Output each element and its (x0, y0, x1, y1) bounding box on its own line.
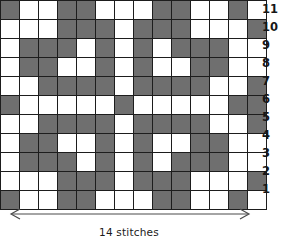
stitch-cell[interactable] (1, 77, 20, 96)
stitch-cell[interactable] (39, 77, 58, 96)
stitch-cell[interactable] (115, 115, 134, 134)
stitch-cell[interactable] (153, 58, 172, 77)
stitch-cell[interactable] (172, 1, 191, 20)
stitch-cell[interactable] (191, 58, 210, 77)
stitch-cell[interactable] (58, 58, 77, 77)
stitch-cell[interactable] (172, 96, 191, 115)
stitch-cell[interactable] (115, 77, 134, 96)
stitch-cell[interactable] (39, 1, 58, 20)
stitch-cell[interactable] (96, 134, 115, 153)
stitch-cell[interactable] (96, 96, 115, 115)
stitch-cell[interactable] (20, 172, 39, 191)
stitch-cell[interactable] (96, 1, 115, 20)
stitch-cell[interactable] (172, 153, 191, 172)
stitch-cell[interactable] (191, 39, 210, 58)
stitch-cell[interactable] (77, 172, 96, 191)
stitch-cell[interactable] (210, 58, 229, 77)
stitch-cell[interactable] (1, 172, 20, 191)
stitch-cell[interactable] (39, 96, 58, 115)
stitch-cell[interactable] (172, 77, 191, 96)
stitch-cell[interactable] (1, 134, 20, 153)
stitch-cell[interactable] (77, 77, 96, 96)
stitch-cell[interactable] (115, 39, 134, 58)
stitch-cell[interactable] (58, 115, 77, 134)
stitch-cell[interactable] (153, 20, 172, 39)
stitch-cell[interactable] (20, 153, 39, 172)
stitch-cell[interactable] (172, 20, 191, 39)
stitch-cell[interactable] (115, 172, 134, 191)
stitch-cell[interactable] (229, 20, 248, 39)
stitch-cell[interactable] (20, 20, 39, 39)
stitch-cell[interactable] (77, 1, 96, 20)
stitch-cell[interactable] (39, 20, 58, 39)
stitch-cell[interactable] (153, 96, 172, 115)
stitch-cell[interactable] (39, 115, 58, 134)
stitch-cell[interactable] (172, 58, 191, 77)
stitch-cell[interactable] (77, 20, 96, 39)
stitch-cell[interactable] (20, 77, 39, 96)
stitch-cell[interactable] (115, 153, 134, 172)
stitch-cell[interactable] (210, 115, 229, 134)
stitch-cell[interactable] (1, 58, 20, 77)
stitch-cell[interactable] (172, 134, 191, 153)
stitch-cell[interactable] (96, 77, 115, 96)
stitch-cell[interactable] (229, 172, 248, 191)
stitch-cell[interactable] (191, 1, 210, 20)
stitch-cell[interactable] (210, 1, 229, 20)
stitch-cell[interactable] (134, 134, 153, 153)
stitch-cell[interactable] (58, 96, 77, 115)
stitch-cell[interactable] (20, 58, 39, 77)
stitch-cell[interactable] (77, 134, 96, 153)
stitch-cell[interactable] (1, 153, 20, 172)
stitch-cell[interactable] (229, 96, 248, 115)
stitch-cell[interactable] (20, 96, 39, 115)
stitch-cell[interactable] (58, 172, 77, 191)
stitch-cell[interactable] (115, 58, 134, 77)
stitch-cell[interactable] (77, 58, 96, 77)
stitch-cell[interactable] (134, 172, 153, 191)
stitch-cell[interactable] (229, 39, 248, 58)
stitch-cell[interactable] (153, 153, 172, 172)
stitch-cell[interactable] (96, 153, 115, 172)
stitch-cell[interactable] (20, 115, 39, 134)
stitch-cell[interactable] (134, 96, 153, 115)
stitch-cell[interactable] (134, 77, 153, 96)
stitch-cell[interactable] (210, 134, 229, 153)
stitch-cell[interactable] (58, 77, 77, 96)
stitch-cell[interactable] (39, 172, 58, 191)
stitch-cell[interactable] (153, 77, 172, 96)
stitch-cell[interactable] (96, 115, 115, 134)
stitch-cell[interactable] (39, 58, 58, 77)
stitch-cell[interactable] (210, 20, 229, 39)
stitch-cell[interactable] (191, 115, 210, 134)
stitch-cell[interactable] (20, 134, 39, 153)
stitch-cell[interactable] (1, 115, 20, 134)
stitch-cell[interactable] (58, 20, 77, 39)
stitch-cell[interactable] (153, 39, 172, 58)
stitch-cell[interactable] (1, 39, 20, 58)
stitch-cell[interactable] (134, 58, 153, 77)
stitch-cell[interactable] (229, 58, 248, 77)
stitch-cell[interactable] (134, 153, 153, 172)
stitch-cell[interactable] (153, 172, 172, 191)
stitch-cell[interactable] (20, 39, 39, 58)
stitch-cell[interactable] (229, 1, 248, 20)
stitch-cell[interactable] (172, 39, 191, 58)
stitch-cell[interactable] (58, 39, 77, 58)
stitch-cell[interactable] (115, 134, 134, 153)
stitch-cell[interactable] (115, 96, 134, 115)
stitch-cell[interactable] (134, 115, 153, 134)
stitch-cell[interactable] (191, 96, 210, 115)
stitch-cell[interactable] (58, 134, 77, 153)
stitch-cell[interactable] (210, 39, 229, 58)
stitch-cell[interactable] (39, 39, 58, 58)
stitch-cell[interactable] (210, 96, 229, 115)
stitch-cell[interactable] (172, 172, 191, 191)
stitch-cell[interactable] (191, 20, 210, 39)
stitch-cell[interactable] (1, 1, 20, 20)
stitch-cell[interactable] (229, 115, 248, 134)
stitch-cell[interactable] (153, 115, 172, 134)
stitch-cell[interactable] (20, 1, 39, 20)
stitch-cell[interactable] (77, 153, 96, 172)
stitch-cell[interactable] (77, 96, 96, 115)
